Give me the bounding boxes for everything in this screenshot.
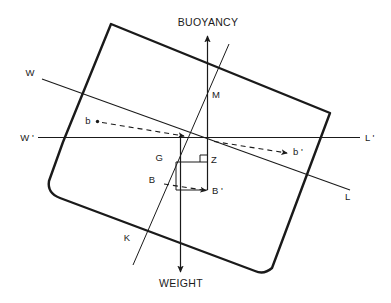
right-angle-marker-icon bbox=[200, 155, 207, 162]
label-waterline-l-prime: L ' bbox=[365, 132, 375, 143]
labels-group: BUOYANCY WEIGHT M G Z B B ' K W W ' L L … bbox=[20, 16, 374, 289]
force-arrows-group bbox=[181, 36, 208, 272]
label-wedge-b-prime: b ' bbox=[293, 146, 303, 157]
label-weight: WEIGHT bbox=[159, 277, 203, 289]
label-shifted-centre-of-buoyancy-bprime: B ' bbox=[212, 185, 223, 196]
hull-group bbox=[49, 24, 330, 272]
upright-waterline bbox=[42, 79, 350, 190]
stability-diagram-canvas: BUOYANCY WEIGHT M G Z B B ' K W W ' L L … bbox=[0, 0, 391, 303]
label-waterline-l: L bbox=[345, 191, 350, 202]
hull-outline bbox=[49, 24, 330, 272]
label-waterline-w-prime: W ' bbox=[20, 132, 34, 143]
wedge-bprime-arrow bbox=[214, 142, 287, 154]
waterlines-group bbox=[38, 79, 360, 190]
label-buoyancy: BUOYANCY bbox=[178, 16, 239, 28]
label-wedge-b: b bbox=[85, 115, 90, 126]
label-centre-of-gravity-g: G bbox=[156, 152, 163, 163]
stability-diagram: BUOYANCY WEIGHT M G Z B B ' K W W ' L L … bbox=[0, 0, 391, 303]
wedge-b-arrow bbox=[102, 123, 184, 137]
label-righting-arm-foot-z: Z bbox=[211, 154, 217, 165]
label-waterline-w: W bbox=[26, 67, 35, 78]
label-metacentre-m: M bbox=[212, 89, 220, 100]
label-centre-of-buoyancy-b: B bbox=[149, 174, 155, 185]
label-keel-k: K bbox=[124, 232, 131, 243]
wedge-b-dot-icon bbox=[96, 120, 99, 123]
